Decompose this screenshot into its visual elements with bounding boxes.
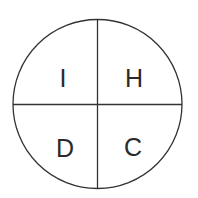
quadrant-top-left-label: I bbox=[60, 64, 67, 92]
quadrant-bottom-left-label: D bbox=[56, 134, 74, 162]
quadrant-bottom-right-label: C bbox=[124, 133, 142, 161]
quadrant-diagram: I H D C bbox=[0, 0, 198, 198]
quadrant-top-right-label: H bbox=[125, 64, 143, 92]
